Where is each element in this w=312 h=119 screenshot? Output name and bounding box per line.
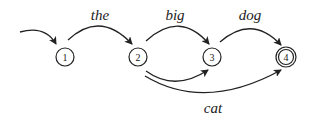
svg-text:1: 1 <box>63 52 68 63</box>
transition-2-3-lower <box>146 70 208 81</box>
label-dog: dog <box>239 7 262 23</box>
svg-text:2: 2 <box>136 52 141 63</box>
label-the: the <box>91 7 110 23</box>
transition-cat <box>145 70 281 93</box>
transition-the <box>68 26 132 44</box>
state-4-final: 4 <box>276 47 296 67</box>
svg-text:4: 4 <box>284 52 289 63</box>
label-big: big <box>165 7 185 23</box>
fsa-diagram: the big dog cat 1 2 3 4 <box>0 0 312 119</box>
transition-big <box>146 26 209 44</box>
state-2: 2 <box>129 48 147 66</box>
label-cat: cat <box>204 100 223 116</box>
state-1: 1 <box>56 48 74 66</box>
fsa-svg: the big dog cat 1 2 3 4 <box>0 0 312 119</box>
transition-dog <box>220 29 281 45</box>
state-3: 3 <box>203 48 221 66</box>
svg-text:3: 3 <box>210 52 215 63</box>
start-arrow <box>20 30 56 44</box>
